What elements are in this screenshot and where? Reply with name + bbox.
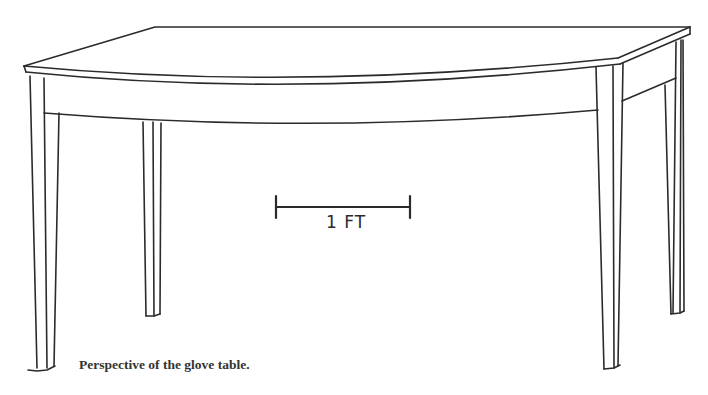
figure-caption: Perspective of the glove table. <box>79 357 250 373</box>
glove-table-drawing <box>0 0 708 395</box>
tabletop-right-edge <box>618 27 690 58</box>
leg-back-left-foot <box>146 314 160 316</box>
leg-front-right <box>596 63 623 369</box>
leg-front-right-foot <box>604 365 620 369</box>
leg-front-left-foot <box>28 366 55 371</box>
leg-front-left <box>30 76 59 368</box>
leg-back-left <box>143 122 161 316</box>
front-apron-bottom <box>44 110 598 123</box>
scale-bar-label: 1 FT <box>326 212 366 232</box>
tabletop-side-edge-bottom <box>620 34 690 64</box>
side-apron-bottom <box>622 78 676 101</box>
tabletop-front-edge-top <box>24 58 618 77</box>
